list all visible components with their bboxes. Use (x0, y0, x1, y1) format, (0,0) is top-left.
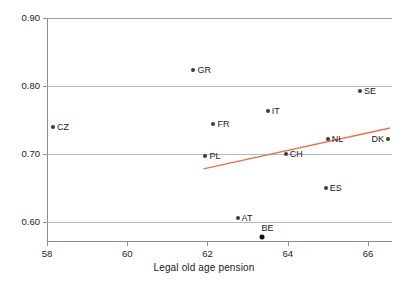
y-tick-label: 0.90 (0, 12, 40, 23)
point-label-se: SE (364, 86, 376, 96)
point-label-dk: DK (371, 134, 384, 144)
point-label-es: ES (330, 183, 342, 193)
data-point-se (358, 89, 362, 93)
point-label-ch: CH (290, 149, 303, 159)
data-point-es (324, 186, 328, 190)
y-tick-mark (43, 86, 47, 87)
x-tick-label: 58 (42, 248, 53, 259)
x-tick-label: 64 (282, 248, 293, 259)
data-point-be (259, 235, 264, 240)
data-point-at (236, 216, 240, 220)
y-tick-label: 0.70 (0, 148, 40, 159)
data-point-fr (211, 122, 215, 126)
y-tick-mark (43, 18, 47, 19)
data-point-dk (386, 137, 390, 141)
data-point-pl (203, 154, 207, 158)
x-tick-label: 62 (202, 248, 213, 259)
x-tick-mark (368, 242, 369, 246)
point-label-pl: PL (209, 151, 220, 161)
x-tick-mark (288, 242, 289, 246)
point-label-nl: NL (332, 134, 344, 144)
x-tick-label: 66 (363, 248, 374, 259)
scatter-chart: 0.600.700.800.90 5860626466 CZGRPLFRATBE… (0, 0, 408, 282)
point-label-fr: FR (217, 119, 229, 129)
gridline (47, 222, 392, 223)
point-label-gr: GR (197, 65, 211, 75)
x-tick-mark (127, 242, 128, 246)
x-axis-title: Legal old age pension (0, 262, 408, 273)
point-label-cz: CZ (57, 122, 69, 132)
x-tick-mark (47, 242, 48, 246)
x-tick-mark (207, 242, 208, 246)
data-point-gr (191, 68, 195, 72)
x-tick-label: 60 (122, 248, 133, 259)
y-tick-mark (43, 154, 47, 155)
trend-line (0, 0, 408, 282)
y-axis-line (47, 18, 48, 241)
data-point-cz (51, 125, 55, 129)
y-tick-mark (43, 222, 47, 223)
gridline (47, 86, 392, 87)
gridline (47, 18, 392, 19)
y-tick-label: 0.80 (0, 80, 40, 91)
point-label-be: BE (262, 223, 274, 233)
data-point-nl (326, 137, 330, 141)
data-point-ch (284, 152, 288, 156)
point-label-at: AT (242, 213, 253, 223)
y-tick-label: 0.60 (0, 216, 40, 227)
data-point-it (266, 109, 270, 113)
x-axis-line (47, 241, 392, 242)
point-label-it: IT (272, 106, 280, 116)
